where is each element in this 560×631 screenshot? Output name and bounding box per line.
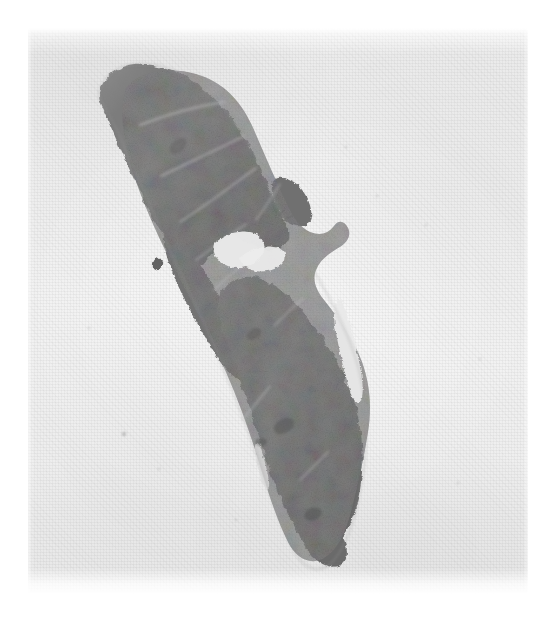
margin-left — [0, 0, 28, 631]
histology-image-viewer: Histology section scan — [0, 0, 560, 631]
margin-top — [0, 0, 560, 28]
isolated-tissue-fleck — [151, 256, 165, 272]
slide-background-field — [28, 28, 528, 595]
tissue-interior-texture — [28, 28, 528, 595]
tissue-section-graphic — [28, 28, 528, 595]
margin-bottom — [0, 595, 560, 631]
margin-right — [528, 0, 560, 631]
tissue-specimen-layer — [28, 28, 528, 595]
